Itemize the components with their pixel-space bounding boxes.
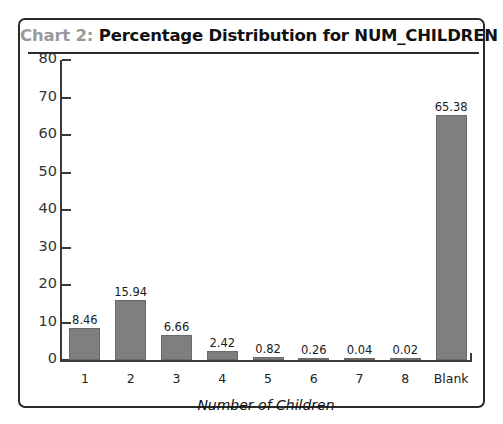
y-axis-tick: 10 bbox=[62, 322, 71, 324]
x-axis-category-label: 5 bbox=[264, 371, 272, 386]
y-axis-tick-label: 0 bbox=[23, 350, 57, 366]
y-axis-tick: 80 bbox=[62, 59, 71, 61]
bar[interactable] bbox=[436, 115, 467, 360]
x-axis-category-label: 3 bbox=[172, 371, 180, 386]
y-axis-tick: 70 bbox=[62, 97, 71, 99]
bar-value-label: 0.26 bbox=[301, 343, 327, 357]
bar[interactable] bbox=[69, 328, 100, 360]
y-axis-tick: 50 bbox=[62, 172, 71, 174]
y-axis-tick: 30 bbox=[62, 247, 71, 249]
bar-value-label: 65.38 bbox=[435, 100, 468, 114]
x-axis-category-label: 1 bbox=[81, 371, 89, 386]
bar-value-label: 8.46 bbox=[72, 313, 98, 327]
y-axis-tick-label: 10 bbox=[23, 313, 57, 329]
y-axis-tick: 20 bbox=[62, 284, 71, 286]
bar[interactable] bbox=[207, 351, 238, 360]
y-axis-tick-label: 30 bbox=[23, 238, 57, 254]
x-axis-category-label: 6 bbox=[310, 371, 318, 386]
bar[interactable] bbox=[115, 300, 146, 360]
chart-title-main: Percentage Distribution for NUM_CHILDREN bbox=[93, 26, 498, 45]
bar-value-label: 0.04 bbox=[347, 343, 373, 357]
x-axis-category-label: 7 bbox=[356, 371, 364, 386]
title-divider bbox=[28, 52, 479, 54]
x-axis-category-label: 8 bbox=[401, 371, 409, 386]
bar-value-label: 0.02 bbox=[393, 343, 419, 357]
bar-value-label: 15.94 bbox=[114, 285, 147, 299]
y-axis-tick-label: 40 bbox=[23, 200, 57, 216]
bar-value-label: 6.66 bbox=[164, 320, 190, 334]
x-axis-category-label: 4 bbox=[218, 371, 226, 386]
chart-frame: Chart 2: Percentage Distribution for NUM… bbox=[18, 18, 485, 408]
bar-value-label: 0.82 bbox=[255, 342, 281, 356]
bar[interactable] bbox=[253, 357, 284, 360]
x-axis-category-label: Blank bbox=[434, 371, 469, 386]
y-axis-tick-label: 70 bbox=[23, 88, 57, 104]
x-axis-category-label: 2 bbox=[127, 371, 135, 386]
bar[interactable] bbox=[298, 358, 329, 360]
y-axis-tick-label: 60 bbox=[23, 125, 57, 141]
bar[interactable] bbox=[390, 358, 421, 360]
chart-title-prefix: Chart 2: bbox=[20, 26, 93, 45]
chart-title: Chart 2: Percentage Distribution for NUM… bbox=[20, 26, 483, 45]
bar[interactable] bbox=[161, 335, 192, 360]
x-axis-line bbox=[60, 360, 472, 362]
y-axis-tick-label: 80 bbox=[23, 50, 57, 66]
y-axis-tick: 40 bbox=[62, 209, 71, 211]
y-axis-tick: 60 bbox=[62, 134, 71, 136]
x-axis-title: Number of Children bbox=[60, 397, 472, 413]
y-axis-tick-label: 20 bbox=[23, 275, 57, 291]
y-axis-tick-label: 50 bbox=[23, 163, 57, 179]
plot-area: 01020304050607080 8.4615.946.662.420.820… bbox=[60, 60, 472, 360]
x-axis-endcap bbox=[470, 353, 472, 362]
bar-value-label: 2.42 bbox=[209, 336, 235, 350]
bar[interactable] bbox=[344, 358, 375, 360]
